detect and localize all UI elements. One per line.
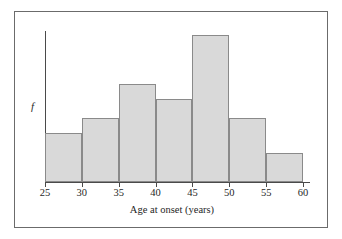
plot-area: f ∕∕ 25 30 <box>15 12 329 229</box>
histogram-bar <box>45 133 82 182</box>
x-tick-label: 45 <box>180 188 204 199</box>
x-tick-label: 25 <box>33 188 57 199</box>
histogram-bar <box>156 99 193 182</box>
histogram-bar <box>82 118 119 182</box>
x-tick-label: 55 <box>254 188 278 199</box>
histogram-bar <box>229 118 266 182</box>
histogram-bar <box>119 84 156 182</box>
bars-layer <box>15 12 329 229</box>
x-tick-label: 40 <box>144 188 168 199</box>
x-axis-title: Age at onset (years) <box>15 204 329 215</box>
figure-frame: f ∕∕ 25 30 <box>14 11 328 228</box>
x-tick-label: 60 <box>291 188 315 199</box>
x-tick-label: 50 <box>217 188 241 199</box>
x-tick-label: 30 <box>70 188 94 199</box>
histogram-figure: f ∕∕ 25 30 <box>0 0 342 239</box>
histogram-bar <box>266 153 303 182</box>
x-tick-label: 35 <box>107 188 131 199</box>
histogram-bar <box>192 35 229 182</box>
